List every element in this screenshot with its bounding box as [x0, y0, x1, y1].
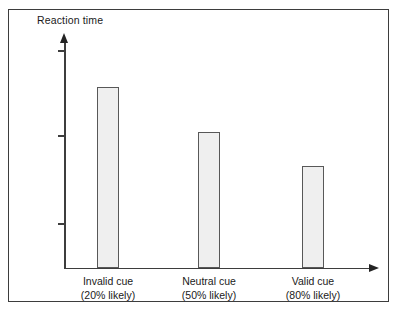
- x-axis-label-line1: Neutral cue: [161, 275, 257, 289]
- bar-valid-cue: [302, 166, 324, 268]
- y-axis-tick-1: [58, 135, 66, 137]
- x-axis-label-line1: Invalid cue: [60, 275, 156, 289]
- x-axis-label-invalid-cue: Invalid cue (20% likely): [60, 275, 156, 302]
- y-axis-tick-2: [58, 223, 66, 225]
- x-axis-label-neutral-cue: Neutral cue (50% likely): [161, 275, 257, 302]
- x-axis-label-line2: (50% likely): [161, 289, 257, 303]
- x-axis-label-line2: (80% likely): [265, 289, 361, 303]
- y-axis-tick-0: [58, 50, 66, 52]
- y-axis-arrow-icon: [60, 33, 68, 43]
- x-axis-arrow-icon: [369, 264, 379, 272]
- reaction-time-bar-chart: Reaction time Invalid cue (20% likely) N…: [0, 0, 399, 311]
- bar-invalid-cue: [97, 87, 119, 268]
- x-axis-label-line2: (20% likely): [60, 289, 156, 303]
- x-axis-label-valid-cue: Valid cue (80% likely): [265, 275, 361, 302]
- y-axis-line: [64, 42, 66, 269]
- y-axis-title: Reaction time: [37, 14, 103, 26]
- bar-neutral-cue: [198, 132, 220, 268]
- x-axis-label-line1: Valid cue: [265, 275, 361, 289]
